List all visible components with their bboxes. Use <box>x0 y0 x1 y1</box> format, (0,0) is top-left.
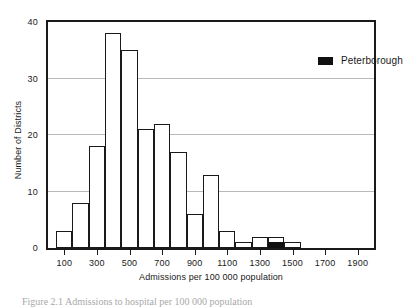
x-tick-label-300: 300 <box>89 258 105 268</box>
y-axis: Number of Districts 010203040 <box>0 20 46 250</box>
legend: Peterborough <box>318 55 403 66</box>
x-tick-500 <box>130 250 131 255</box>
x-tick-100 <box>64 250 65 255</box>
bar-1000 <box>203 175 219 248</box>
x-tick-1500 <box>293 250 294 255</box>
x-tick-900 <box>195 250 196 255</box>
bar-900 <box>187 214 203 248</box>
y-tick-label-40: 40 <box>28 18 38 27</box>
bar-1200 <box>235 242 251 248</box>
x-tick-label-500: 500 <box>122 258 138 268</box>
bar-1300 <box>252 237 268 248</box>
bar-1500 <box>284 242 300 248</box>
x-tick-700 <box>162 250 163 255</box>
x-tick-label-1300: 1300 <box>249 258 270 268</box>
y-axis-title: Number of Districts <box>13 75 23 205</box>
bar-highlight-peterborough <box>268 242 284 248</box>
x-tick-label-1900: 1900 <box>347 258 368 268</box>
x-tick-label-1100: 1100 <box>217 258 237 268</box>
x-tick-label-700: 700 <box>154 258 170 268</box>
x-tick-1700 <box>325 250 326 255</box>
bar-1100 <box>219 231 235 248</box>
bar-500 <box>121 50 137 248</box>
bar-400 <box>105 33 121 248</box>
x-axis: 10030050070090011001300150017001900 Admi… <box>46 250 376 290</box>
bar-300 <box>89 146 105 248</box>
y-tick-label-0: 0 <box>33 244 38 253</box>
bar-700 <box>154 124 170 248</box>
legend-label-peterborough: Peterborough <box>341 55 403 66</box>
plot-area: Peterborough <box>46 20 376 250</box>
figure-caption: Figure 2.1 Admissions to hospital per 10… <box>22 296 382 307</box>
bar-200 <box>72 203 88 248</box>
legend-swatch-peterborough <box>318 57 333 65</box>
x-tick-1100 <box>227 250 228 255</box>
x-tick-1300 <box>260 250 261 255</box>
x-axis-title: Admissions per 100 000 population <box>46 272 376 282</box>
x-tick-label-1700: 1700 <box>315 258 336 268</box>
x-tick-1900 <box>358 250 359 255</box>
y-tick-label-30: 30 <box>28 74 38 83</box>
x-tick-label-1500: 1500 <box>282 258 303 268</box>
bar-800 <box>170 152 186 248</box>
x-tick-label-100: 100 <box>56 258 72 268</box>
y-tick-label-20: 20 <box>28 131 38 140</box>
y-tick-label-10: 10 <box>28 187 38 196</box>
x-tick-label-900: 900 <box>187 258 203 268</box>
bar-100 <box>56 231 72 248</box>
x-tick-300 <box>97 250 98 255</box>
bar-600 <box>138 129 154 248</box>
bar-1400 <box>268 237 284 248</box>
